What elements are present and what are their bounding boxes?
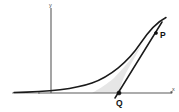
point-p-marker [154, 31, 157, 34]
point-p-label: P [160, 30, 166, 40]
diagram-canvas: P Q y x [0, 0, 179, 112]
y-axis-label: y [49, 2, 52, 8]
math-figure: P Q y x [0, 0, 179, 112]
exponential-curve [14, 18, 166, 93]
point-q-label: Q [116, 98, 123, 108]
x-axis-label: x [172, 86, 175, 92]
point-q-marker [117, 91, 121, 95]
